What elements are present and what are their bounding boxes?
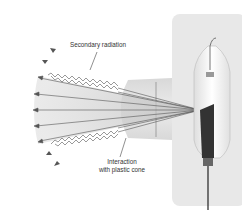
interaction-label-line1: Interaction	[92, 158, 152, 166]
interaction-label: Interaction with plastic cone	[92, 158, 152, 173]
interaction-leader-line	[120, 138, 126, 157]
cathode-cup	[206, 72, 214, 77]
xray-tube-diagram	[0, 0, 242, 224]
interaction-label-line2: with plastic cone	[92, 166, 152, 174]
secondary-radiation-label: Secondary radiation	[70, 41, 126, 49]
anode	[200, 104, 214, 158]
anode-stem	[203, 158, 213, 166]
secondary-leader-line	[90, 52, 97, 70]
